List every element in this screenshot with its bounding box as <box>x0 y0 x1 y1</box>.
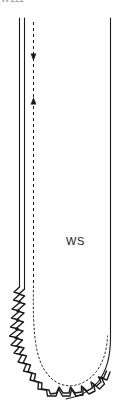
ws-label: WS <box>66 235 85 247</box>
arrow-up-icon <box>31 97 37 105</box>
dotted-inner-contour <box>33 286 107 386</box>
jagged-inner-margin <box>15 289 107 394</box>
right-wall-line <box>66 18 111 399</box>
arrow-down-icon <box>31 54 37 62</box>
figure-canvas: W111 WS <box>0 0 128 414</box>
technical-line-drawing <box>0 0 128 414</box>
